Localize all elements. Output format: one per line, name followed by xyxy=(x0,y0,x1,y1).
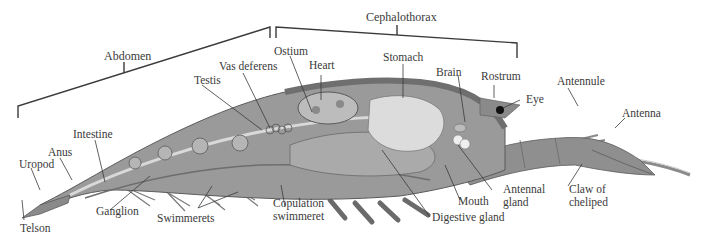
label-claw-of-cheliped-1: Claw of xyxy=(569,183,606,195)
label-cephalothorax: Cephalothorax xyxy=(366,11,437,23)
label-swimmerets: Swimmerets xyxy=(157,212,215,224)
abdomen-bracket xyxy=(18,27,270,118)
label-mouth: Mouth xyxy=(458,195,489,207)
label-antennal-gland-1: Antennal xyxy=(503,183,545,195)
label-anus: Anus xyxy=(48,146,72,158)
crayfish-body xyxy=(22,80,520,218)
label-intestine: Intestine xyxy=(73,128,113,140)
label-testis: Testis xyxy=(194,74,221,86)
label-rostrum: Rostrum xyxy=(481,70,521,82)
label-stomach: Stomach xyxy=(383,51,423,63)
label-uropod: Uropod xyxy=(19,158,54,170)
label-ganglion: Ganglion xyxy=(96,205,139,217)
label-brain: Brain xyxy=(436,66,462,78)
label-ostium: Ostium xyxy=(274,45,308,57)
label-heart: Heart xyxy=(309,59,335,71)
label-digestive-gland: Digestive gland xyxy=(432,211,505,223)
label-copulation-swimmeret-1: Copulation xyxy=(273,197,324,209)
label-claw-of-cheliped-2: cheliped xyxy=(569,196,608,208)
label-eye: Eye xyxy=(526,93,544,105)
crayfish-anatomy-diagram: Abdomen Cephalothorax Ostium Heart Vas d… xyxy=(0,0,712,239)
label-abdomen: Abdomen xyxy=(104,50,151,62)
label-vas-deferens: Vas deferens xyxy=(219,60,277,72)
walking-legs xyxy=(330,200,428,222)
label-telson: Telson xyxy=(20,222,51,234)
label-antennal-gland-2: gland xyxy=(503,196,529,208)
label-antennule: Antennule xyxy=(557,75,605,87)
label-antenna: Antenna xyxy=(622,107,661,119)
label-copulation-swimmeret-2: swimmeret xyxy=(273,210,324,222)
